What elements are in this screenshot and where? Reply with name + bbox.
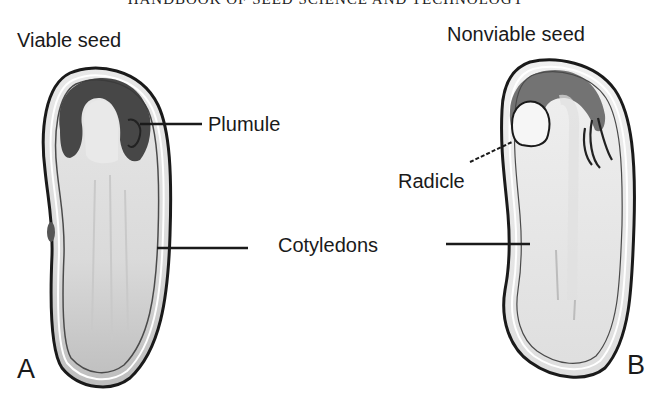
- panel-b-title: Nonviable seed: [447, 24, 585, 44]
- seed-figure: [0, 0, 652, 402]
- panel-a-title: Viable seed: [17, 30, 121, 50]
- panel-b-letter: B: [627, 352, 645, 379]
- cotyledons-label: Cotyledons: [278, 235, 378, 255]
- radicle-label: Radicle: [398, 171, 465, 191]
- panel-a-letter: A: [17, 356, 35, 383]
- viable-seed-drawing: [43, 68, 170, 387]
- plumule-label: Plumule: [208, 114, 280, 134]
- nonviable-seed-drawing: [502, 60, 635, 377]
